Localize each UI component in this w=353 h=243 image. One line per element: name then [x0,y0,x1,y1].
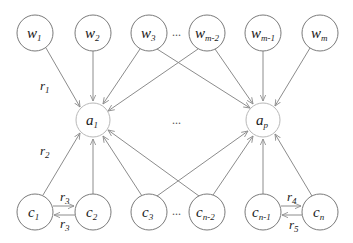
edge-c1-a1 [43,133,80,195]
node-c3: c3 [131,194,167,230]
ellipsis-middle: ... [172,113,181,127]
edge-label-r2: r2 [40,143,50,160]
node-c2: c2 [75,194,111,230]
edge-label-r5: r5 [289,217,299,234]
node-w3: w3 [131,15,167,51]
node-c-n-1: cn-1 [245,194,281,230]
ellipsis-bottom: ... [172,204,181,218]
bottom-edges [43,130,312,196]
edge-cn2-a1 [108,130,199,196]
node-w2: w2 [75,15,111,51]
top-edges [46,48,310,111]
node-w-m: wm [302,15,338,51]
edge-w3-ap [157,49,250,108]
node-a1: a1 [76,103,110,137]
ellipses: ... ... ... [172,25,181,218]
ellipsis-top: ... [172,25,181,39]
node-a-p: ap [246,103,280,137]
edge-c3-a1 [103,136,142,196]
edge-w3-a1 [103,49,140,104]
node-w-m-1: wm-1 [245,15,281,51]
edge-label-r1: r1 [40,78,50,95]
node-c-n-2: cn-2 [189,194,225,230]
edge-label-r3-forward: r3 [60,189,70,206]
bipartite-graph-diagram: r1 r2 r3 r3 r4 r5 ... ... ... w1 w2 w3 w… [0,0,353,243]
edge-wm2-ap [215,49,253,104]
edge-w1-a1 [46,48,80,107]
edge-cn-ap [275,134,312,196]
node-c1: c1 [17,194,53,230]
node-w1: w1 [17,15,53,51]
edge-cn2-ap [213,136,253,195]
node-w-m-2: wm-2 [189,15,225,51]
node-c-n: cn [302,194,338,230]
edge-wm2-a1 [108,49,198,111]
edge-wm-ap [275,48,310,106]
edge-label-r3-backward: r3 [60,216,70,233]
edge-label-r4: r4 [287,189,297,206]
